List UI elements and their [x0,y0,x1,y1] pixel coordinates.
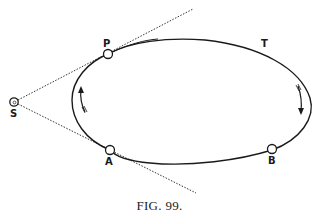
label-b: B [268,155,276,166]
arrow-down-icon [296,84,304,115]
point-s-marker [10,98,18,106]
orbit-diagram: S P A B T [0,0,319,219]
label-t: T [261,38,268,49]
point-b-marker [268,145,277,154]
point-a-marker [106,146,115,155]
point-p-marker [104,50,113,59]
figure-caption: FIG. 99. [0,198,319,214]
label-a: A [105,156,113,167]
arrow-up-icon [78,86,87,113]
label-p: P [103,38,110,49]
label-s: S [10,108,17,119]
